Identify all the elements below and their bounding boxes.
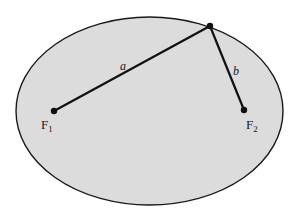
segment-b-label: b: [233, 64, 239, 78]
focus2-label-main: F: [246, 117, 253, 132]
ellipse-diagram: a b F1 F2: [0, 0, 296, 217]
focus1-label-main: F: [41, 117, 48, 132]
focus2-label-sub: 2: [253, 124, 258, 134]
focus1-point: [51, 108, 57, 114]
segment-a-label: a: [120, 59, 126, 73]
focus2-point: [241, 107, 247, 113]
ellipse-point: [207, 23, 213, 29]
focus1-label-sub: 1: [48, 124, 53, 134]
